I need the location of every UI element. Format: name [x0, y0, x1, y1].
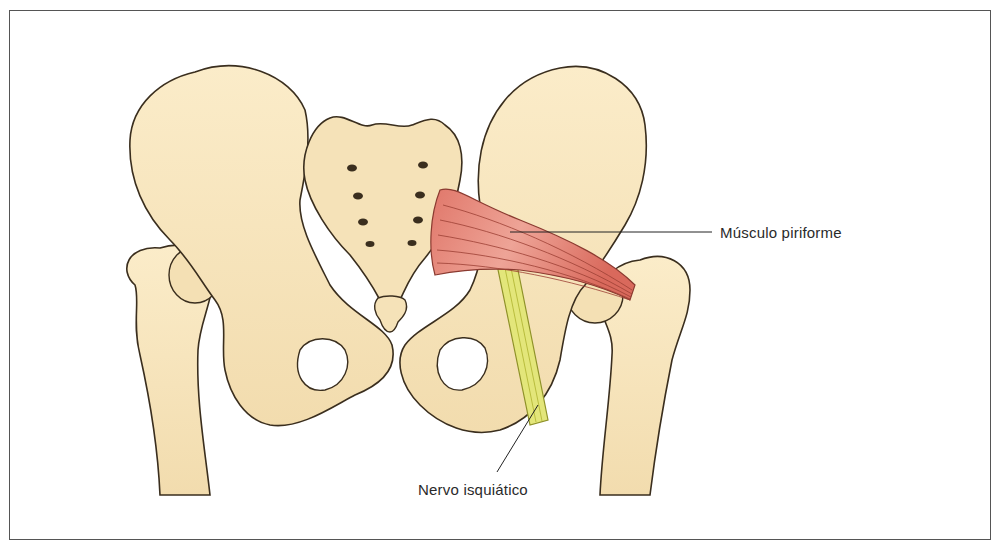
label-piriformis: Músculo piriforme	[720, 224, 842, 241]
label-sciatic-nerve: Nervo isquiático	[418, 481, 528, 498]
pelvis-illustration	[0, 0, 1001, 553]
coccyx	[375, 296, 407, 332]
